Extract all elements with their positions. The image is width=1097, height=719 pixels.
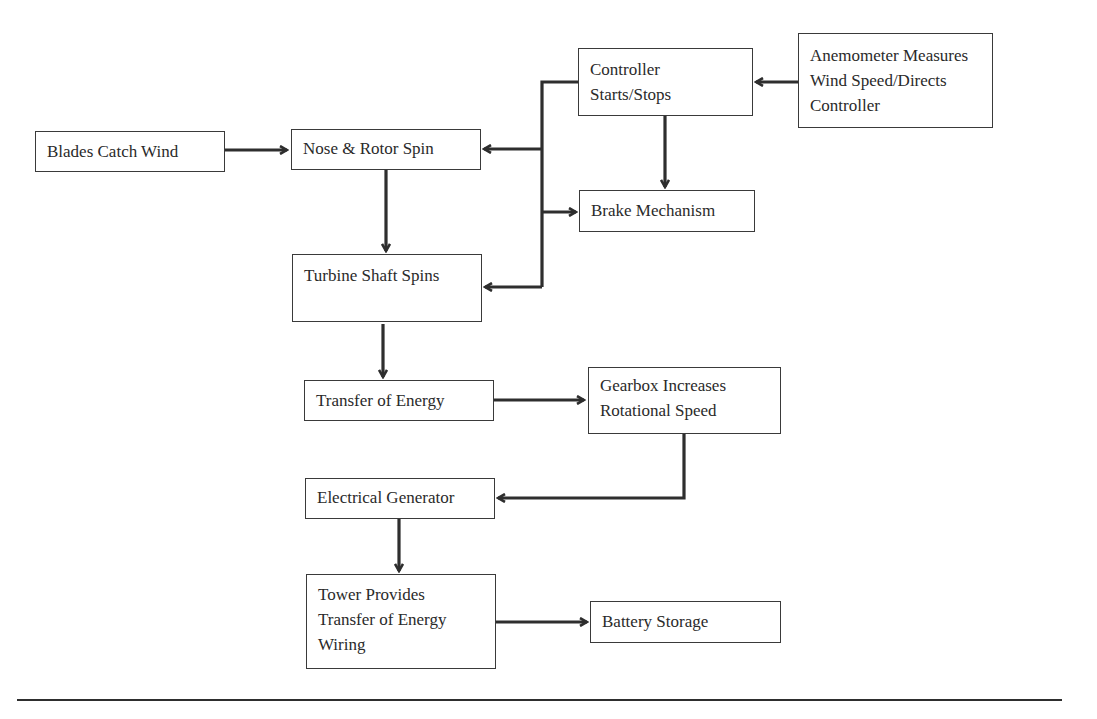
node-controller: Controller Starts/Stops <box>578 48 753 116</box>
node-turbine-shaft-spins: Turbine Shaft Spins <box>292 254 482 322</box>
node-label: Blades Catch Wind <box>47 139 213 164</box>
node-label-line-3: Wiring <box>318 632 484 657</box>
node-electrical-generator: Electrical Generator <box>305 478 495 519</box>
node-label: Brake Mechanism <box>591 198 743 223</box>
node-tower: Tower Provides Transfer of Energy Wiring <box>306 574 496 669</box>
arrow-gearbox-to-generator <box>498 434 684 498</box>
node-nose-rotor-spin: Nose & Rotor Spin <box>291 129 481 170</box>
node-label: Electrical Generator <box>317 485 483 510</box>
node-label: Battery Storage <box>602 609 769 634</box>
bottom-divider <box>17 699 1062 701</box>
node-label: Nose & Rotor Spin <box>303 136 469 161</box>
node-anemometer: Anemometer Measures Wind Speed/Directs C… <box>798 33 993 128</box>
node-label-line-3: Controller <box>810 93 981 118</box>
node-label: Transfer of Energy <box>316 388 482 413</box>
node-label-line-2: Transfer of Energy <box>318 607 484 632</box>
node-battery-storage: Battery Storage <box>590 601 781 643</box>
node-label-line-2: Wind Speed/Directs <box>810 68 981 93</box>
node-transfer-of-energy: Transfer of Energy <box>304 380 494 421</box>
node-gearbox: Gearbox Increases Rotational Speed <box>588 367 781 434</box>
node-label-line-1: Controller <box>590 57 741 82</box>
controller-bus-line <box>542 82 578 287</box>
node-blades-catch-wind: Blades Catch Wind <box>35 131 225 172</box>
node-label-line-1: Gearbox Increases <box>600 373 769 398</box>
node-label-line-2: Rotational Speed <box>600 398 769 423</box>
node-label-line-2: Starts/Stops <box>590 82 741 107</box>
node-brake-mechanism: Brake Mechanism <box>579 190 755 232</box>
node-label-line-1: Anemometer Measures <box>810 43 981 68</box>
node-label: Turbine Shaft Spins <box>304 263 470 288</box>
node-label-line-1: Tower Provides <box>318 582 484 607</box>
